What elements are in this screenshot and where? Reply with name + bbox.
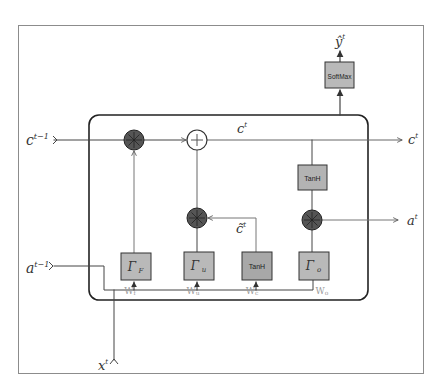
tanh-output-block: TanH: [298, 165, 327, 190]
add-operator: [187, 130, 207, 150]
svg-text:Γ: Γ: [190, 259, 200, 273]
svg-text:Γ: Γ: [127, 260, 137, 274]
forget-gate: Γ F: [121, 253, 151, 280]
forget-multiply-operator: [124, 130, 144, 150]
lstm-diagram: SoftMax TanH Γ F Γ u TanH Γ o Wf Wu Wc W…: [0, 0, 443, 392]
update-multiply-operator: [187, 208, 207, 228]
candidate-tanh-gate: TanH: [242, 252, 272, 280]
output-multiply-operator: [302, 210, 322, 230]
svg-text:TanH: TanH: [304, 175, 320, 182]
output-gate: Γ o: [299, 252, 329, 280]
update-gate: Γ u: [184, 252, 214, 280]
svg-text:TanH: TanH: [249, 263, 265, 270]
svg-text:o: o: [317, 266, 321, 274]
svg-text:u: u: [202, 266, 207, 274]
softmax-block: SoftMax: [325, 62, 354, 88]
svg-text:SoftMax: SoftMax: [328, 73, 353, 80]
svg-text:Γ: Γ: [305, 259, 315, 273]
